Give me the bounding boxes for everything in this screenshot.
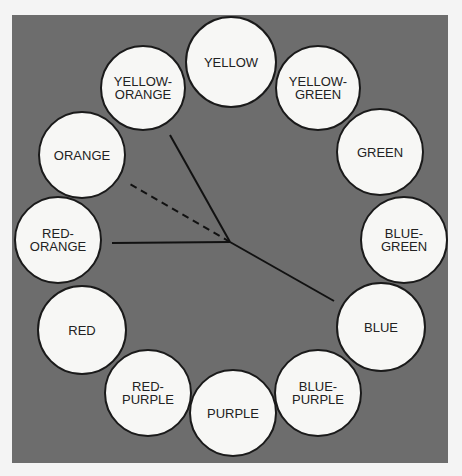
color-circle-orange: ORANGE xyxy=(38,111,126,199)
color-circle-green: GREEN xyxy=(336,108,424,196)
color-label: YELLOW- ORANGE xyxy=(114,75,172,101)
color-label: RED xyxy=(68,324,95,337)
color-label: GREEN xyxy=(357,146,403,159)
color-circle-blue: BLUE xyxy=(336,282,426,372)
color-label: YELLOW- GREEN xyxy=(289,75,347,101)
color-label: BLUE xyxy=(364,321,398,334)
color-label: PURPLE xyxy=(207,407,259,420)
connector-line-blue xyxy=(230,242,334,301)
connector-line-red-orange xyxy=(112,242,230,243)
color-circle-yellow: YELLOW xyxy=(185,16,277,108)
color-label: RED- PURPLE xyxy=(122,380,174,406)
color-label: BLUE- PURPLE xyxy=(292,380,344,406)
color-circle-blue-green: BLUE- GREEN xyxy=(360,196,448,284)
connector-line-yellow-orange xyxy=(170,135,230,242)
color-label: ORANGE xyxy=(54,149,110,162)
color-circle-yellow-orange: YELLOW- ORANGE xyxy=(100,45,186,131)
color-circle-red-purple: RED- PURPLE xyxy=(104,349,192,437)
color-circle-red: RED xyxy=(37,285,127,375)
color-label: BLUE- GREEN xyxy=(381,227,427,253)
color-circle-red-orange: RED- ORANGE xyxy=(14,196,102,284)
connector-line-orange xyxy=(130,184,230,242)
color-circle-yellow-green: YELLOW- GREEN xyxy=(275,45,361,131)
color-wheel-diagram: YELLOWYELLOW- GREENGREENBLUE- GREENBLUEB… xyxy=(0,0,462,476)
color-circle-blue-purple: BLUE- PURPLE xyxy=(274,349,362,437)
color-label: YELLOW xyxy=(204,56,258,69)
color-circle-purple: PURPLE xyxy=(189,369,277,457)
color-label: RED- ORANGE xyxy=(30,227,86,253)
